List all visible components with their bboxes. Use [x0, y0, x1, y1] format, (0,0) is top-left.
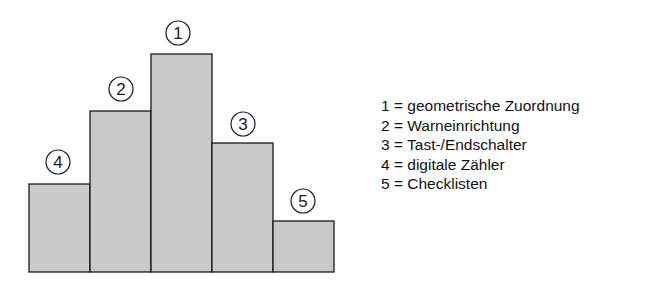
marker-4: 4	[46, 150, 70, 174]
svg-text:5: 5	[298, 192, 307, 211]
marker-2: 2	[109, 77, 133, 101]
legend-item-3: 3 = Tast-/Endschalter	[381, 135, 580, 155]
marker-1: 1	[166, 21, 190, 45]
legend-item-5: 5 = Checklisten	[381, 174, 580, 194]
bar-4	[29, 184, 90, 272]
marker-5: 5	[291, 189, 315, 213]
legend: 1 = geometrische Zuordnung 2 = Warneinri…	[381, 96, 580, 194]
svg-text:3: 3	[238, 115, 247, 134]
bar-2	[90, 111, 151, 272]
svg-text:1: 1	[173, 24, 182, 43]
legend-item-2: 2 = Warneinrichtung	[381, 116, 580, 136]
svg-text:4: 4	[53, 153, 62, 172]
legend-item-1: 1 = geometrische Zuordnung	[381, 96, 580, 116]
bar-3	[212, 143, 273, 272]
bars-group	[29, 54, 334, 272]
marker-3: 3	[231, 112, 255, 136]
svg-text:2: 2	[116, 80, 125, 99]
bar-chart: 12345	[0, 0, 340, 294]
bar-5	[273, 221, 334, 272]
legend-item-4: 4 = digitale Zähler	[381, 155, 580, 175]
bar-1	[151, 54, 212, 272]
